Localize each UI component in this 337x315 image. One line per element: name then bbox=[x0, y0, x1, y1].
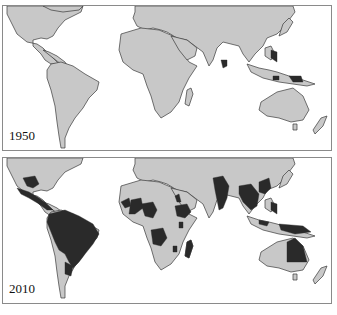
world-map-2010 bbox=[3, 158, 332, 304]
map-panel-1950: 1950 bbox=[2, 5, 332, 151]
map-panel-2010: 2010 bbox=[2, 157, 332, 304]
world-map-1950 bbox=[3, 6, 332, 151]
year-label: 2010 bbox=[9, 281, 35, 297]
year-label: 1950 bbox=[9, 128, 35, 144]
